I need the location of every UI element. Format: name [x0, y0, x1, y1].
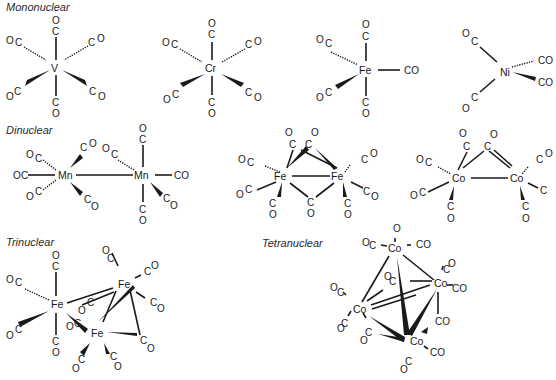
svg-text:C: C: [35, 186, 42, 197]
svg-text:CO: CO: [435, 316, 450, 327]
svg-text:O: O: [208, 18, 216, 29]
svg-text:C: C: [208, 97, 215, 108]
svg-text:C: C: [172, 89, 179, 100]
svg-text:C: C: [522, 201, 529, 212]
svg-text:Fe: Fe: [118, 278, 130, 290]
svg-text:O: O: [91, 201, 99, 212]
svg-text:Fe: Fe: [331, 170, 343, 182]
svg-text:Ni: Ni: [500, 66, 510, 78]
svg-text:O: O: [416, 154, 424, 165]
svg-text:Co: Co: [353, 303, 367, 315]
svg-text:C: C: [361, 154, 368, 165]
svg-text:C: C: [389, 276, 396, 287]
molecule-cr-co6: Cr C O C O O C C O O C C O: [162, 18, 262, 119]
svg-text:CO: CO: [538, 55, 553, 66]
svg-text:O: O: [52, 15, 60, 26]
svg-text:O: O: [208, 108, 216, 119]
svg-text:C: C: [15, 37, 22, 48]
svg-text:C: C: [536, 154, 543, 165]
svg-text:O: O: [102, 143, 110, 154]
svg-text:O: O: [360, 335, 368, 346]
svg-text:O: O: [410, 190, 418, 201]
svg-text:O: O: [490, 129, 498, 140]
molecule-fe2-co9: Fe Fe C O C O C O O C O C C O C O C O C …: [236, 127, 379, 220]
svg-text:O: O: [371, 191, 379, 202]
svg-text:CO: CO: [452, 283, 467, 294]
svg-text:C: C: [337, 287, 344, 298]
svg-text:Fe: Fe: [91, 327, 103, 339]
svg-text:O: O: [238, 154, 246, 165]
svg-text:C: C: [471, 92, 478, 103]
svg-text:C: C: [363, 186, 370, 197]
svg-text:C: C: [139, 134, 146, 145]
svg-text:C: C: [52, 261, 59, 272]
svg-text:C: C: [341, 318, 348, 329]
svg-text:O: O: [370, 148, 378, 159]
molecule-v-co6: V C O C O O C C O O C C O: [6, 15, 106, 119]
svg-text:C: C: [447, 201, 454, 212]
svg-text:O: O: [462, 28, 470, 39]
svg-text:O: O: [98, 91, 106, 102]
svg-text:C: C: [289, 139, 296, 150]
molecule-ni-co4: Ni O C CO CO C O: [462, 28, 553, 114]
svg-text:Fe: Fe: [359, 64, 371, 76]
svg-text:O: O: [6, 274, 14, 285]
svg-text:CO: CO: [404, 65, 419, 76]
svg-text:O: O: [545, 148, 553, 159]
svg-text:O: O: [462, 103, 470, 114]
svg-text:O: O: [393, 223, 401, 234]
svg-text:C: C: [171, 39, 178, 50]
svg-text:Fe: Fe: [274, 170, 286, 182]
svg-text:CO: CO: [174, 170, 189, 181]
molecule-fe-co5: Fe C O C O CO O C O C: [316, 19, 419, 119]
svg-text:V: V: [51, 62, 58, 74]
svg-text:C: C: [52, 336, 59, 347]
molecule-fe3-co12: Fe Fe Fe C O C O O C O C O C O C O C C O…: [6, 245, 165, 374]
svg-text:CO: CO: [538, 77, 553, 88]
svg-text:O: O: [254, 92, 262, 103]
svg-text:C: C: [15, 277, 22, 288]
svg-text:C: C: [325, 38, 332, 49]
svg-text:Co: Co: [510, 172, 524, 184]
svg-text:C: C: [307, 197, 314, 208]
svg-text:C: C: [471, 36, 478, 47]
svg-text:C: C: [80, 142, 87, 153]
svg-text:C: C: [425, 157, 432, 168]
svg-text:C: C: [419, 187, 426, 198]
svg-text:C: C: [89, 86, 96, 97]
svg-text:O: O: [316, 34, 324, 45]
svg-text:C: C: [369, 240, 376, 251]
svg-text:O: O: [157, 303, 165, 314]
svg-text:O: O: [13, 170, 21, 181]
svg-text:C: C: [111, 149, 118, 160]
svg-text:C: C: [305, 139, 312, 150]
svg-text:O: O: [52, 108, 60, 119]
svg-text:O: O: [139, 123, 147, 134]
svg-text:CO: CO: [416, 239, 431, 250]
svg-text:C: C: [14, 86, 21, 97]
svg-text:O: O: [344, 209, 352, 220]
svg-text:Mn: Mn: [134, 169, 149, 181]
svg-text:C: C: [52, 26, 59, 37]
svg-text:O: O: [362, 108, 370, 119]
svg-text:C: C: [540, 185, 547, 196]
svg-text:C: C: [245, 39, 252, 50]
svg-text:C: C: [15, 324, 22, 335]
svg-text:O: O: [78, 305, 86, 316]
svg-text:C: C: [208, 29, 215, 40]
svg-text:O: O: [52, 347, 60, 358]
svg-text:O: O: [6, 91, 14, 102]
svg-text:O: O: [269, 209, 277, 220]
svg-text:C: C: [87, 297, 94, 308]
molecule-mn2-co10: Mn O C O C O C C O C O Mn C O C O CO O C…: [13, 123, 189, 226]
svg-text:C: C: [21, 170, 28, 181]
svg-text:C: C: [74, 318, 81, 329]
svg-text:O: O: [26, 191, 34, 202]
svg-text:C: C: [52, 97, 59, 108]
svg-text:O: O: [72, 363, 80, 374]
svg-text:O: O: [316, 92, 324, 103]
svg-text:C: C: [107, 253, 114, 264]
svg-text:O: O: [447, 213, 455, 224]
svg-text:C: C: [463, 141, 470, 152]
svg-text:O: O: [400, 364, 408, 375]
